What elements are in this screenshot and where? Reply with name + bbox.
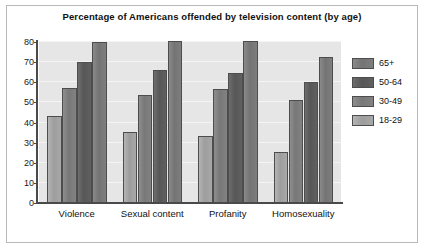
y-axis-tick-label: 20	[12, 159, 34, 168]
bar	[77, 62, 92, 203]
y-axis-tick-mark	[34, 102, 37, 103]
y-axis-tick-label: 10	[12, 179, 34, 188]
y-axis-tick-labels: 01020304050607080	[8, 0, 34, 252]
legend-item: 65+	[352, 56, 416, 72]
bar	[213, 89, 228, 203]
y-axis-tick-mark	[34, 203, 37, 204]
x-axis-category-label: Violence	[39, 208, 115, 219]
x-axis-line	[36, 202, 343, 204]
bar	[92, 42, 107, 203]
legend-item: 18-29	[352, 113, 416, 129]
bar	[274, 152, 289, 203]
y-axis-tick-mark	[34, 42, 37, 43]
x-axis-category-label: Homosexuality	[266, 208, 342, 219]
y-axis-tick-mark	[34, 183, 37, 184]
legend-item: 50-64	[352, 75, 416, 91]
chart-figure: Percentage of Americans offended by tele…	[0, 0, 424, 252]
legend-label: 65+	[379, 58, 394, 69]
legend-label: 30-49	[379, 96, 402, 107]
y-axis-tick-label: 80	[12, 38, 34, 47]
y-axis-tick-label: 70	[12, 58, 34, 67]
y-axis-tick-mark	[34, 62, 37, 63]
legend-swatch	[352, 115, 374, 126]
x-axis-category-label: Profanity	[190, 208, 266, 219]
legend-swatch	[352, 77, 374, 88]
y-axis-tick-label: 0	[12, 199, 34, 208]
bar	[123, 132, 138, 203]
y-axis-tick-mark	[34, 143, 37, 144]
legend-label: 18-29	[379, 115, 402, 126]
legend-swatch	[352, 58, 374, 69]
gridline	[39, 41, 341, 42]
y-axis-tick-label: 30	[12, 139, 34, 148]
y-axis-tick-mark	[34, 123, 37, 124]
chart-title: Percentage of Americans offended by tele…	[0, 11, 424, 22]
x-axis-category-label: Sexual content	[115, 208, 191, 219]
bar	[153, 70, 168, 203]
y-axis-tick-label: 40	[12, 119, 34, 128]
bar	[228, 73, 243, 203]
bar	[138, 95, 153, 203]
chart-legend: 65+50-6430-4918-29	[352, 56, 416, 132]
legend-item: 30-49	[352, 94, 416, 110]
y-axis-tick-label: 60	[12, 78, 34, 87]
y-axis-tick-mark	[34, 82, 37, 83]
bar	[304, 82, 319, 203]
legend-swatch	[352, 96, 374, 107]
bar	[243, 41, 258, 203]
bar	[319, 57, 334, 203]
plot-area	[39, 42, 341, 203]
bar	[198, 136, 213, 203]
y-axis-tick-label: 50	[12, 98, 34, 107]
bar	[62, 88, 77, 203]
bar	[168, 41, 183, 203]
y-axis-tick-mark	[34, 163, 37, 164]
bar	[289, 100, 304, 203]
bar	[47, 116, 62, 203]
legend-label: 50-64	[379, 77, 402, 88]
